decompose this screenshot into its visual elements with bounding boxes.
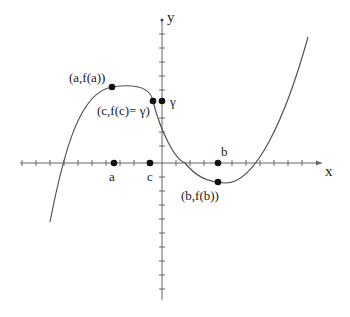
function-curve [50, 37, 308, 222]
point-c-fc [150, 98, 157, 105]
label-gamma: γ [169, 94, 176, 109]
point-a-fa [109, 84, 116, 91]
ivt-diagram: (a,f(a)) (c,f(c)= γ) γ a c b (b,f(b)) x … [0, 0, 350, 317]
label-a-fa: (a,f(a)) [69, 70, 105, 85]
label-c: c [147, 169, 153, 184]
point-gamma [159, 98, 166, 105]
x-axis [20, 160, 322, 166]
y-axis [159, 19, 165, 301]
point-b [215, 160, 222, 167]
label-x-axis: x [325, 163, 333, 179]
y-axis-arrow-icon [161, 19, 164, 22]
point-b-fb [215, 179, 222, 186]
label-a: a [109, 169, 115, 184]
point-c [147, 160, 154, 167]
x-axis-arrow-icon [316, 161, 322, 166]
point-a [111, 160, 118, 167]
label-c-fc: (c,f(c)= γ) [97, 103, 150, 118]
diagram-canvas: (a,f(a)) (c,f(c)= γ) γ a c b (b,f(b)) x … [0, 0, 350, 317]
label-b-fb: (b,f(b)) [181, 188, 219, 203]
label-b: b [221, 144, 228, 159]
label-y-axis: y [167, 9, 175, 25]
